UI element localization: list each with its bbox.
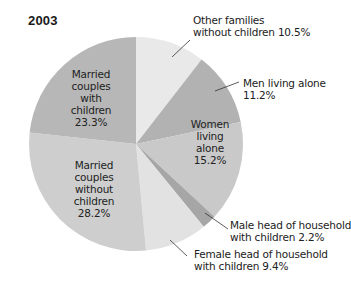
label-married-with: Married couples with children 23.3% [56, 68, 126, 128]
label-married-without: Married couples without children 28.2% [59, 159, 129, 219]
label-female-head: Female head of household with children 9… [194, 248, 328, 272]
label-men-alone: Men living alone 11.2% [243, 77, 326, 101]
label-male-head: Male head of household with children 2.2… [230, 219, 351, 243]
label-other-families: Other families without children 10.5% [193, 14, 310, 38]
chart-title: 2003 [28, 13, 58, 28]
label-women-alone: Women living alone 15.2% [180, 118, 240, 166]
leader-line-female-head [170, 240, 187, 256]
